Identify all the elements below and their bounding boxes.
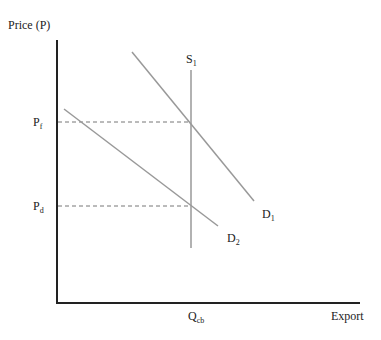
qcb-label-main: Q <box>188 309 197 323</box>
s1-label-sub: 1 <box>193 59 197 68</box>
d2-label: D2 <box>227 232 240 247</box>
qcb-label: Qcb <box>188 310 204 325</box>
d1-label: D1 <box>262 208 275 223</box>
pf-label-main: P <box>33 115 40 129</box>
diagram-canvas <box>0 0 381 340</box>
qcb-label-sub: cb <box>197 316 205 325</box>
pd-label: Pd <box>33 200 44 215</box>
pf-label-sub: f <box>40 122 43 131</box>
d1-label-main: D <box>262 207 271 221</box>
pd-label-sub: d <box>40 206 44 215</box>
d1-label-sub: 1 <box>271 214 275 223</box>
x-axis-label: Export <box>331 310 364 322</box>
pf-label: Pf <box>33 116 42 131</box>
s1-label: S1 <box>186 53 197 68</box>
y-axis-label: Price (P) <box>8 19 50 31</box>
d2-label-sub: 2 <box>236 238 240 247</box>
demand-curve-d2 <box>64 109 218 226</box>
demand-curve-d1 <box>132 52 254 201</box>
s1-label-main: S <box>186 52 193 66</box>
pd-label-main: P <box>33 199 40 213</box>
d2-label-main: D <box>227 231 236 245</box>
